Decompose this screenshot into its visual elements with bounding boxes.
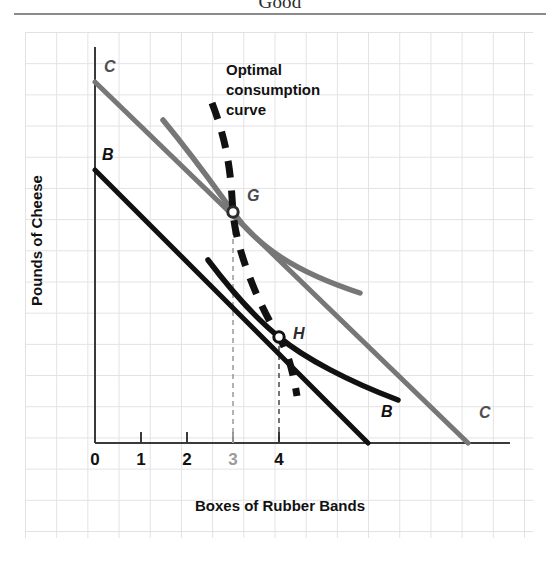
point-g-label: G [247, 187, 259, 205]
budget-c-right-label: C [479, 404, 491, 422]
x-tick-label-4: 4 [266, 450, 292, 470]
annotation-line-2: consumption [226, 80, 320, 100]
optimal-consumption-annotation: Optimal consumption curve [226, 60, 320, 120]
x-tick-label-0: 0 [82, 450, 108, 470]
x-tick-label-1: 1 [128, 450, 154, 470]
y-axis-title: Pounds of Cheese [28, 161, 45, 321]
x-tick-label-3: 3 [220, 450, 246, 470]
annotation-line-1: Optimal [226, 60, 320, 80]
budget-b-left-label: B [102, 146, 114, 164]
figure-root: Good Optimal cons [0, 0, 560, 567]
optimal-consumption-curve [212, 103, 297, 396]
annotation-line-3: curve [226, 100, 320, 120]
budget-line-c [95, 82, 468, 443]
point-h-marker [274, 332, 284, 342]
budget-b-right-label: B [381, 403, 393, 421]
x-tick-marks [95, 432, 279, 443]
budget-c-left-label: C [104, 58, 116, 76]
point-h-label: H [293, 325, 305, 343]
point-g-marker [228, 207, 238, 217]
x-tick-label-2: 2 [174, 450, 200, 470]
x-axis-title: Boxes of Rubber Bands [120, 497, 440, 514]
